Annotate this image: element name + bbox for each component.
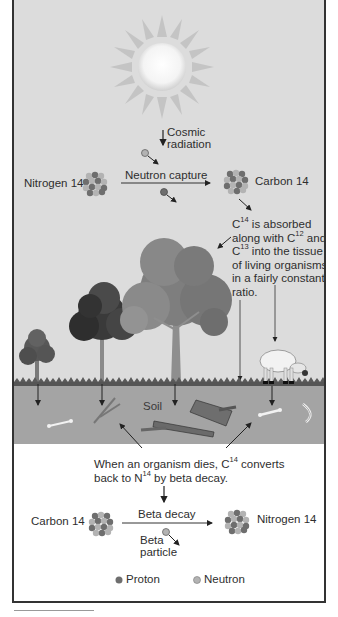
proton-dot-icon <box>116 577 123 584</box>
branch-icon <box>141 421 214 437</box>
carbon-14-nucleus-bottom-icon <box>89 512 113 536</box>
death-line1-sup: 14 <box>230 455 238 464</box>
beta-particle-label-line2: particle <box>140 546 177 559</box>
nitrogen-14-label-top: Nitrogen 14 <box>24 177 83 190</box>
nitrogen-14-label-bottom: Nitrogen 14 <box>257 513 316 526</box>
log-icon <box>190 400 236 426</box>
absorption-note: C14 is absorbed along with C12 and C13 i… <box>232 218 326 299</box>
absorption-line2-sup: 12 <box>295 229 303 238</box>
nitrogen-14-nucleus-bottom-icon <box>225 510 249 534</box>
absorption-line1-sup: 14 <box>240 215 248 224</box>
absorption-line3-post: into the tissue <box>249 245 323 257</box>
death-line2-sup: 14 <box>143 469 151 478</box>
large-tree-icon <box>120 238 232 384</box>
note-to-tree-arrow <box>218 237 231 248</box>
soil-label: Soil <box>143 400 162 413</box>
death-line1-post: converts <box>238 458 285 470</box>
legend-neutron-label: Neutron <box>204 573 245 586</box>
bone-icon-2 <box>258 408 282 417</box>
absorption-line2-post: and <box>304 232 326 244</box>
absorption-line5: in a fairly constant <box>232 272 326 286</box>
death-line2-pre: back to N <box>94 472 143 484</box>
grass-strip <box>14 377 326 386</box>
legend-proton-label: Proton <box>126 573 160 586</box>
decay-arrow-right <box>226 423 251 448</box>
twig-icon <box>94 398 120 423</box>
neutron-dot-icon <box>194 577 201 584</box>
carbon-14-label-top: Carbon 14 <box>255 175 309 188</box>
absorption-line4: of living organisms <box>232 259 326 273</box>
death-line1-pre: When an organism dies, C <box>94 458 230 470</box>
decay-arrow-left <box>120 424 142 448</box>
sheep-icon <box>260 350 308 384</box>
death-note: When an organism dies, C14 converts back… <box>94 458 294 485</box>
footnote-rule <box>14 610 94 611</box>
death-line2-post: by beta decay. <box>151 472 228 484</box>
carbon-14-label-bottom: Carbon 14 <box>31 515 85 528</box>
horn-icon <box>303 404 310 422</box>
sun-icon <box>110 15 214 119</box>
ejected-proton-icon <box>161 189 177 203</box>
carbon-to-note-arrow <box>239 199 251 210</box>
nitrogen-14-nucleus-icon <box>83 172 107 196</box>
cosmic-radiation-label-line2: radiation <box>167 138 211 151</box>
neutron-capture-label: Neutron capture <box>125 169 207 182</box>
beta-particle-icon <box>163 529 180 546</box>
absorption-line3-sup: 13 <box>240 242 248 251</box>
diagram-frame: Cosmic radiation Nitrogen 14 Neutron cap… <box>12 0 326 603</box>
carbon-14-nucleus-icon <box>224 170 248 194</box>
small-tree-icon <box>19 329 55 384</box>
incoming-neutron-icon <box>142 150 159 165</box>
beta-decay-label: Beta decay <box>138 508 196 521</box>
absorption-line6: ratio. <box>232 286 326 300</box>
bone-icon <box>47 419 73 428</box>
